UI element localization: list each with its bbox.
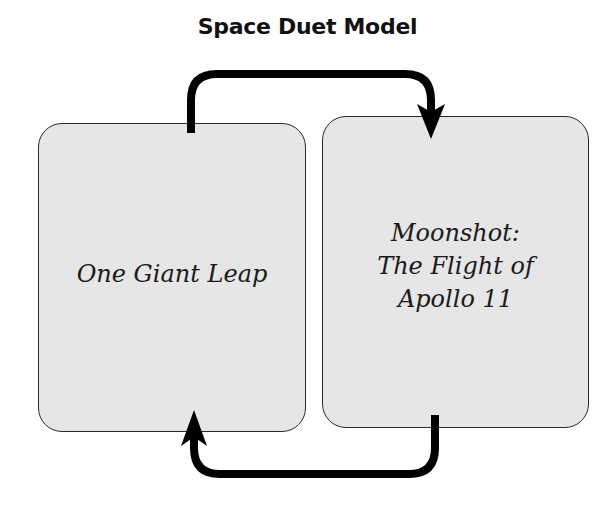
cycle-arrows [0, 0, 615, 505]
arrow-left-to-right-icon [191, 74, 445, 139]
arrow-right-to-left-icon [181, 410, 435, 474]
